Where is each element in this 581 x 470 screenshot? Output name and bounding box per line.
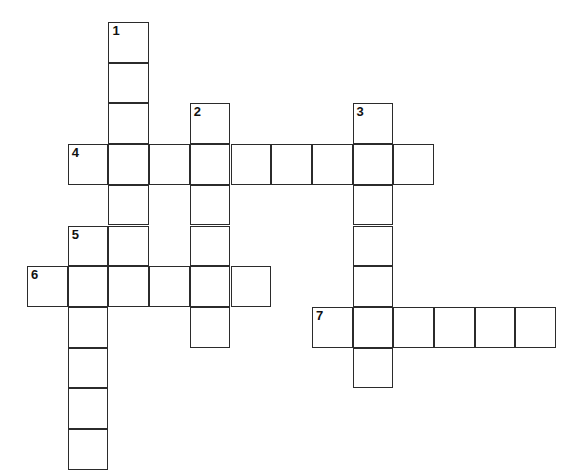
crossword-cell[interactable] <box>68 388 109 429</box>
crossword-cell[interactable] <box>108 185 149 226</box>
crossword-cell[interactable] <box>68 348 109 389</box>
cell-number-4: 4 <box>72 146 79 160</box>
crossword-cell[interactable] <box>108 103 149 144</box>
crossword-cell[interactable] <box>353 307 394 348</box>
crossword-cell[interactable] <box>231 144 272 185</box>
crossword-cell[interactable] <box>231 266 272 307</box>
crossword-cell[interactable] <box>353 226 394 267</box>
cell-number-1: 1 <box>112 24 119 38</box>
crossword-cell[interactable] <box>149 144 190 185</box>
crossword-cell[interactable] <box>190 307 231 348</box>
crossword-cell[interactable] <box>393 307 434 348</box>
crossword-cell[interactable] <box>108 63 149 104</box>
crossword-cell[interactable] <box>271 144 312 185</box>
crossword-cell-numbered-3[interactable]: 3 <box>353 103 394 144</box>
crossword-cell[interactable] <box>68 307 109 348</box>
crossword-cell[interactable] <box>190 266 231 307</box>
cell-number-2: 2 <box>194 105 201 119</box>
crossword-cell[interactable] <box>190 226 231 267</box>
cell-number-6: 6 <box>31 268 38 282</box>
crossword-cell[interactable] <box>353 185 394 226</box>
crossword-cell[interactable] <box>353 144 394 185</box>
crossword-cell[interactable] <box>108 266 149 307</box>
crossword-cell[interactable] <box>108 226 149 267</box>
crossword-cell[interactable] <box>353 348 394 389</box>
crossword-cell[interactable] <box>68 429 109 470</box>
crossword-cell[interactable] <box>475 307 516 348</box>
crossword-cell[interactable] <box>190 144 231 185</box>
crossword-cell-numbered-5[interactable]: 5 <box>68 226 109 267</box>
crossword-cell-numbered-1[interactable]: 1 <box>108 22 149 63</box>
crossword-cell[interactable] <box>353 266 394 307</box>
crossword-cell[interactable] <box>434 307 475 348</box>
crossword-cell-numbered-4[interactable]: 4 <box>68 144 109 185</box>
cell-number-5: 5 <box>72 228 79 242</box>
crossword-cell[interactable] <box>312 144 353 185</box>
crossword-cell[interactable] <box>393 144 434 185</box>
crossword-cell[interactable] <box>108 144 149 185</box>
cell-number-3: 3 <box>357 105 364 119</box>
crossword-cell[interactable] <box>149 266 190 307</box>
crossword-cell-numbered-6[interactable]: 6 <box>27 266 68 307</box>
cell-number-7: 7 <box>316 309 323 323</box>
crossword-cell-numbered-2[interactable]: 2 <box>190 103 231 144</box>
crossword-cell[interactable] <box>190 185 231 226</box>
crossword-cell-numbered-7[interactable]: 7 <box>312 307 353 348</box>
crossword-cell[interactable] <box>68 266 109 307</box>
crossword-cell[interactable] <box>515 307 556 348</box>
